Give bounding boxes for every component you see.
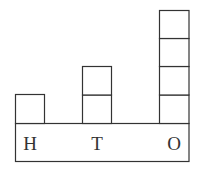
hundreds-block-1 bbox=[16, 95, 45, 124]
place-value-diagram: H T O bbox=[0, 0, 199, 177]
ones-block-1 bbox=[160, 95, 190, 124]
hundreds-label: H bbox=[23, 133, 37, 154]
ones-label: O bbox=[167, 133, 181, 154]
ones-block-2 bbox=[160, 67, 190, 96]
ones-block-3 bbox=[160, 39, 190, 67]
tens-block-2 bbox=[83, 67, 112, 96]
tens-block-1 bbox=[83, 95, 112, 124]
tens-label: T bbox=[91, 133, 103, 154]
ones-block-4 bbox=[160, 11, 190, 39]
